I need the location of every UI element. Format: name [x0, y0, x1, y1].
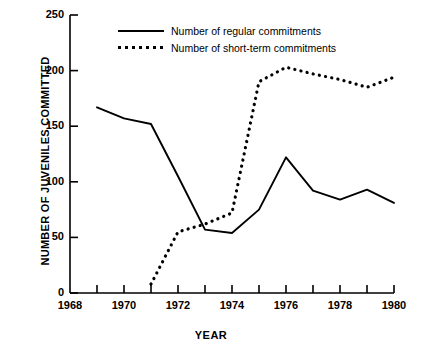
legend-item-short-term: Number of short-term commitments: [118, 39, 336, 56]
y-tick-label: 50: [30, 230, 64, 242]
y-tick-label: 200: [30, 64, 64, 76]
x-axis-title: YEAR: [0, 329, 422, 341]
chart-container: NUMBER OF JUVENILES COMMITTED YEAR 05010…: [0, 0, 422, 354]
x-tick-label: 1968: [50, 299, 90, 311]
y-tick-label: 150: [30, 119, 64, 131]
chart-legend: Number of regular commitments Number of …: [118, 22, 336, 56]
x-tick-label: 1976: [266, 299, 306, 311]
legend-item-regular: Number of regular commitments: [118, 22, 336, 39]
y-tick-label: 100: [30, 175, 64, 187]
x-tick-label: 1970: [104, 299, 144, 311]
legend-label-regular: Number of regular commitments: [171, 25, 321, 37]
x-tick-label: 1972: [158, 299, 198, 311]
x-tick-label: 1978: [320, 299, 360, 311]
legend-label-short-term: Number of short-term commitments: [171, 42, 336, 54]
legend-swatch-solid-line-icon: [118, 26, 164, 36]
legend-swatch-dotted-line-icon: [118, 43, 164, 53]
series-line-1: [97, 107, 394, 233]
y-tick-label: 0: [30, 286, 64, 298]
chart-axes: [70, 15, 394, 293]
series-line-2: [151, 67, 394, 284]
x-tick-label: 1974: [212, 299, 252, 311]
y-tick-label: 250: [30, 8, 64, 20]
x-tick-label: 1980: [374, 299, 414, 311]
chart-series: [97, 67, 394, 284]
